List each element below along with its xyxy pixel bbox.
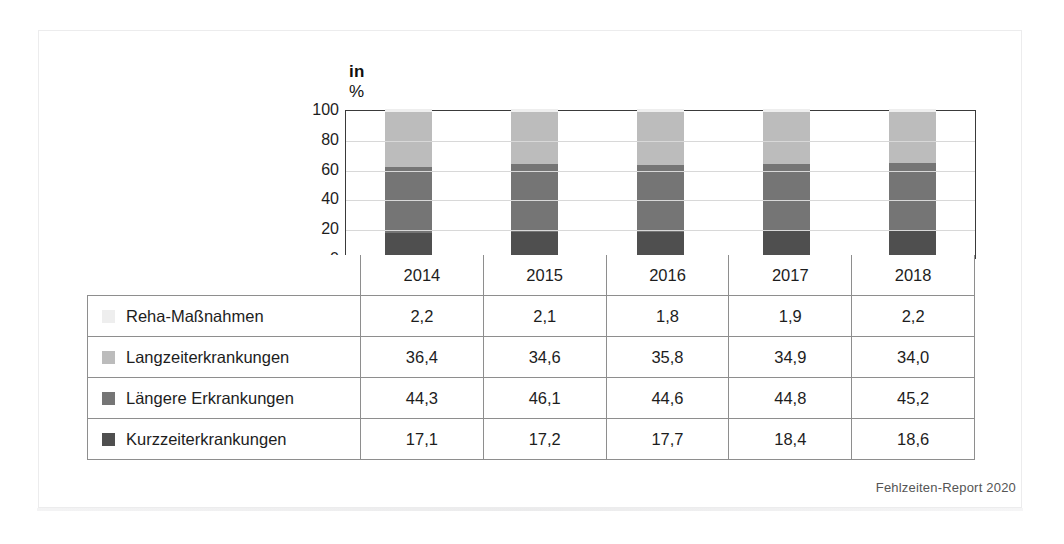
legend-row-Kurzzeiterkrankungen: Kurzzeiterkrankungen	[88, 419, 361, 460]
table-cell-2018: 45,2	[852, 378, 975, 419]
bar-segment	[637, 112, 684, 165]
table-cell-2015: 17,2	[483, 419, 606, 460]
legend-swatch-icon	[102, 351, 115, 364]
legend-label: Langzeiterkrankungen	[126, 348, 289, 367]
axis-unit-symbol: %	[349, 82, 364, 101]
y-tick-80: 80	[321, 132, 339, 148]
gridline-40	[346, 200, 975, 201]
y-tick-40: 40	[321, 191, 339, 207]
bar-segment	[637, 165, 684, 231]
legend-label: Reha-Maßnahmen	[126, 307, 264, 326]
bar-segment	[385, 112, 432, 166]
bar-column-2015	[472, 111, 598, 258]
legend-swatch-icon	[102, 310, 115, 323]
column-header-2014: 2014	[361, 255, 484, 296]
bar-column-2018	[849, 111, 975, 258]
table-cell-2014: 36,4	[361, 337, 484, 378]
gridline-80	[346, 141, 975, 142]
column-header-2016: 2016	[606, 255, 729, 296]
gridline-60	[346, 171, 975, 172]
source-note: Fehlzeiten-Report 2020	[876, 480, 1016, 495]
bar-segment	[889, 230, 936, 258]
axis-unit-label: in %	[349, 62, 365, 102]
stacked-bar	[889, 109, 936, 258]
bar-column-2014	[346, 111, 472, 258]
table-cell-2017: 18,4	[729, 419, 852, 460]
y-tick-20: 20	[321, 221, 339, 237]
bar-segment	[889, 163, 936, 230]
plot-area	[345, 110, 976, 259]
column-header-2018: 2018	[852, 255, 975, 296]
bar-segment	[763, 164, 810, 231]
bar-segment	[763, 112, 810, 164]
table-row: Langzeiterkrankungen36,434,635,834,934,0	[88, 337, 975, 378]
table-corner-cell	[88, 255, 361, 296]
data-table: 20142015201620172018Reha-Maßnahmen2,22,1…	[87, 255, 975, 460]
stacked-bar	[511, 109, 558, 258]
table-row: Kurzzeiterkrankungen17,117,217,718,418,6	[88, 419, 975, 460]
bar-segment	[511, 164, 558, 233]
bar-column-2016	[598, 111, 724, 258]
legend-swatch-icon	[102, 392, 115, 405]
data-table-body: 20142015201620172018Reha-Maßnahmen2,22,1…	[88, 255, 975, 460]
table-cell-2015: 2,1	[483, 296, 606, 337]
legend-label: Kurzzeiterkrankungen	[126, 430, 287, 449]
table-cell-2018: 18,6	[852, 419, 975, 460]
table-cell-2016: 35,8	[606, 337, 729, 378]
table-row-years: 20142015201620172018	[88, 255, 975, 296]
table-cell-2016: 44,6	[606, 378, 729, 419]
column-header-2017: 2017	[729, 255, 852, 296]
table-cell-2017: 34,9	[729, 337, 852, 378]
table-cell-2016: 17,7	[606, 419, 729, 460]
figure-page: in % 020406080100 20142015201620172018Re…	[0, 0, 1064, 544]
legend-row-Reha-Maßnahmen: Reha-Maßnahmen	[88, 296, 361, 337]
table-cell-2016: 1,8	[606, 296, 729, 337]
legend-label: Längere Erkrankungen	[126, 389, 294, 408]
table-row: Längere Erkrankungen44,346,144,644,845,2	[88, 378, 975, 419]
table-cell-2015: 46,1	[483, 378, 606, 419]
stacked-bar	[385, 109, 432, 258]
table-cell-2014: 2,2	[361, 296, 484, 337]
stacked-bar	[637, 109, 684, 258]
y-tick-100: 100	[312, 102, 339, 118]
bar-segment	[889, 112, 936, 163]
table-cell-2017: 44,8	[729, 378, 852, 419]
table-cell-2018: 2,2	[852, 296, 975, 337]
table-row: Reha-Maßnahmen2,22,11,81,92,2	[88, 296, 975, 337]
table-cell-2014: 44,3	[361, 378, 484, 419]
table-cell-2014: 17,1	[361, 419, 484, 460]
bar-column-2017	[723, 111, 849, 258]
bar-segment	[763, 231, 810, 258]
legend-row-Langzeiterkrankungen: Langzeiterkrankungen	[88, 337, 361, 378]
axis-unit-prefix: in	[349, 62, 365, 81]
column-header-2015: 2015	[483, 255, 606, 296]
y-tick-60: 60	[321, 162, 339, 178]
table-cell-2015: 34,6	[483, 337, 606, 378]
legend-row-Längere Erkrankungen: Längere Erkrankungen	[88, 378, 361, 419]
bar-segment	[511, 112, 558, 164]
table-cell-2017: 1,9	[729, 296, 852, 337]
stacked-bar	[763, 109, 810, 258]
table-cell-2018: 34,0	[852, 337, 975, 378]
bar-group	[346, 111, 975, 258]
gridline-20	[346, 230, 975, 231]
legend-swatch-icon	[102, 433, 115, 446]
